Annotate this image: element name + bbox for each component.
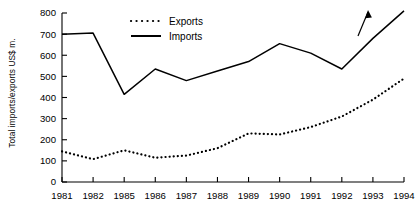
x-tick-label: 1994	[393, 190, 415, 201]
y-tick-label: 700	[40, 29, 56, 40]
imports-rise-arrow-icon	[358, 10, 372, 36]
x-tick-label: 1991	[300, 190, 321, 201]
chart-figure: Total imports/exports US$ m. 01002003004…	[0, 0, 419, 211]
y-tick-label: 400	[40, 92, 56, 103]
y-tick-label: 600	[40, 50, 56, 61]
x-axis-ticks: 1981198219851986198719881989199019911992…	[51, 177, 415, 201]
series-layer	[62, 11, 404, 159]
x-tick-label: 1993	[362, 190, 383, 201]
y-axis-title: Total imports/exports US$ m.	[7, 3, 17, 183]
y-tick-label: 800	[40, 7, 56, 18]
y-tick-label: 200	[40, 134, 56, 145]
series-line-imports	[62, 11, 404, 94]
line-chart-plot: 0100200300400500600700800 19811982198519…	[0, 0, 419, 211]
series-line-exports	[62, 78, 404, 159]
legend-label-exports: Exports	[169, 16, 203, 27]
x-tick-label: 1990	[269, 190, 290, 201]
y-tick-label: 300	[40, 113, 56, 124]
legend-label-imports: Imports	[169, 31, 202, 42]
y-tick-label: 0	[51, 176, 56, 187]
x-tick-label: 1982	[82, 190, 103, 201]
x-tick-label: 1986	[145, 190, 166, 201]
y-tick-label: 500	[40, 71, 56, 82]
x-tick-label: 1985	[114, 190, 135, 201]
y-tick-label: 100	[40, 155, 56, 166]
x-tick-label: 1981	[51, 190, 72, 201]
x-tick-label: 1992	[331, 190, 352, 201]
x-tick-label: 1987	[176, 190, 197, 201]
x-tick-label: 1989	[238, 190, 259, 201]
chart-legend: ExportsImports	[131, 16, 203, 42]
x-tick-label: 1988	[207, 190, 228, 201]
